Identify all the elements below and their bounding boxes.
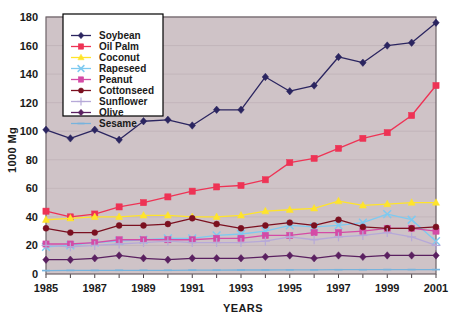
data-point-marker	[165, 194, 171, 200]
data-point-marker	[141, 223, 147, 229]
legend-item-label: Rapeseed	[99, 63, 146, 74]
legend-item-label: Soybean	[99, 30, 141, 41]
data-point-marker	[311, 223, 317, 229]
legend-item-label: Oil Palm	[99, 41, 139, 52]
x-tick-label: 1999	[375, 282, 399, 294]
x-axis-title: YEARS	[223, 302, 263, 314]
legend-item-label: Coconut	[99, 52, 140, 63]
data-point-marker	[165, 221, 171, 227]
x-tick-label: 1989	[131, 282, 155, 294]
data-point-marker	[262, 177, 268, 183]
y-tick-label: 100	[20, 125, 38, 137]
data-point-marker	[262, 223, 268, 229]
data-point-marker	[287, 220, 293, 226]
data-point-marker	[214, 184, 220, 190]
data-point-marker	[43, 208, 49, 214]
data-point-marker	[335, 145, 341, 151]
data-point-marker	[67, 230, 73, 236]
x-tick-label: 1993	[229, 282, 253, 294]
y-tick-label: 40	[26, 211, 38, 223]
x-axis-tick-labels: 198519871989199119931995199719992001	[34, 282, 448, 294]
chart-legend[interactable]: SoybeanOil PalmCoconutRapeseedPeanutCott…	[63, 14, 163, 129]
y-tick-label: 180	[20, 11, 38, 23]
data-point-marker	[78, 77, 83, 82]
x-tick-label: 1995	[278, 282, 302, 294]
y-tick-label: 160	[20, 40, 38, 52]
data-point-marker	[189, 215, 195, 221]
data-point-marker	[360, 224, 366, 230]
data-point-marker	[311, 155, 317, 161]
data-point-marker	[336, 217, 342, 223]
y-tick-label: 120	[20, 97, 38, 109]
data-point-marker	[409, 112, 415, 118]
x-tick-label: 2001	[424, 282, 448, 294]
y-tick-label: 140	[20, 68, 38, 80]
data-point-marker	[140, 200, 146, 206]
y-tick-label: 80	[26, 154, 38, 166]
legend-item-label: Peanut	[99, 74, 133, 85]
y-tick-label: 60	[26, 182, 38, 194]
data-point-marker	[78, 88, 83, 93]
data-point-marker	[214, 221, 220, 227]
data-point-marker	[409, 225, 415, 231]
data-point-marker	[287, 160, 293, 166]
legend-item-label: Sesame	[99, 118, 137, 129]
x-tick-label: 1997	[326, 282, 350, 294]
legend-item-label: Sunflower	[99, 96, 147, 107]
data-point-marker	[311, 229, 317, 235]
y-axis-title: 1000 Mg	[6, 127, 18, 173]
data-point-marker	[116, 204, 122, 210]
legend-item-label: Cottonseed	[99, 85, 154, 96]
data-point-marker	[116, 223, 122, 229]
data-point-marker	[238, 225, 244, 231]
data-point-marker	[384, 130, 390, 136]
data-point-marker	[78, 44, 83, 49]
data-point-marker	[189, 188, 195, 194]
y-tick-label: 20	[26, 239, 38, 251]
x-tick-label: 1987	[83, 282, 107, 294]
data-point-marker	[433, 224, 439, 230]
data-point-marker	[238, 182, 244, 188]
x-tick-label: 1985	[34, 282, 58, 294]
data-point-marker	[92, 230, 98, 236]
line-chart-figure: 020406080100120140160180 198519871989199…	[0, 0, 450, 320]
data-point-marker	[360, 135, 366, 141]
legend-item-label: Olive	[99, 107, 124, 118]
data-point-marker	[43, 225, 49, 231]
x-tick-label: 1991	[180, 282, 204, 294]
y-tick-label: 0	[32, 268, 38, 280]
data-point-marker	[433, 82, 439, 88]
